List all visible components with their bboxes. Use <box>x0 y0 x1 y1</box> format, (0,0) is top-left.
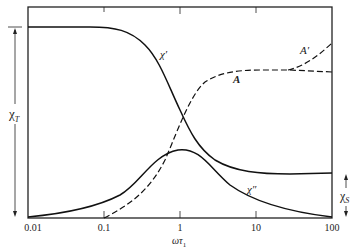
A-prime-label: A′ <box>300 44 309 56</box>
x-axis-label: ωτ1 <box>172 235 186 249</box>
A-label: A <box>233 73 240 85</box>
arrowhead-down-icon <box>13 211 17 217</box>
plot-frame <box>28 7 332 218</box>
chi-double-prime-curve <box>28 150 332 217</box>
chi-prime-curve <box>28 27 332 174</box>
x-tick-label: 100 <box>325 222 340 233</box>
chi-t-subscript: T <box>15 115 19 124</box>
x-tick-label: 0.1 <box>98 222 111 233</box>
x-tick-label: 0.01 <box>24 222 42 233</box>
x-tick-label: 1 <box>178 222 183 233</box>
x-axis-label-main: ωτ <box>172 235 183 246</box>
x-axis-label-subscript: 1 <box>183 241 187 249</box>
A-prime-curve <box>288 43 332 70</box>
chi-t-label: χT <box>9 106 19 124</box>
chi-prime-label: χ′ <box>160 48 167 60</box>
chi-double-prime-label: χ″ <box>247 183 256 195</box>
susceptibility-chart: χ′ χ″ A A′ χT χS 0.01 0.1 1 10 100 ωτ1 <box>0 0 360 252</box>
arrowhead-up-icon <box>13 28 17 34</box>
chi-s-label: χS <box>340 189 349 205</box>
chart-canvas <box>0 0 360 252</box>
arrowhead-up-icon <box>344 174 348 180</box>
A-curve <box>104 70 332 218</box>
arrowhead-down-icon <box>344 211 348 217</box>
x-tick-label: 10 <box>251 222 261 233</box>
chi-s-subscript: S <box>345 196 349 205</box>
